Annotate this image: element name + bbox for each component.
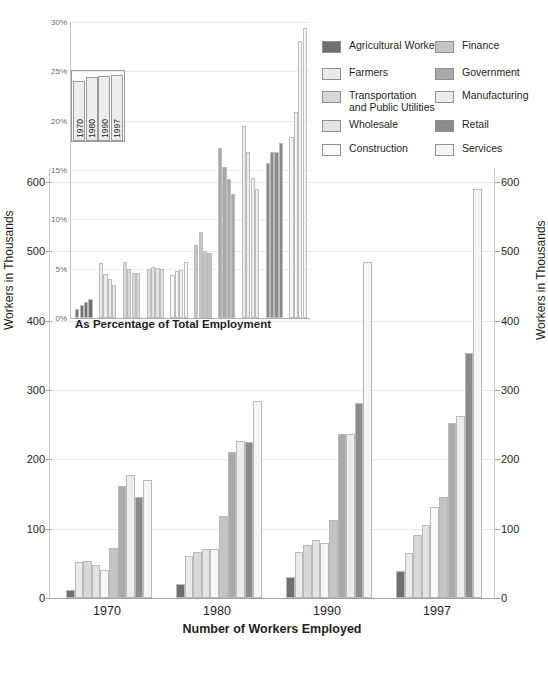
inset-bar	[255, 189, 259, 318]
legend-label: Farmers	[349, 67, 388, 79]
legend-label: Retail	[462, 119, 489, 131]
y-tick-label-left: 300	[27, 384, 45, 396]
inset-bar	[303, 28, 307, 318]
main-bar	[363, 262, 372, 598]
main-x-tick-label: 1990	[313, 604, 341, 618]
y-tick-label-right: 600	[501, 176, 519, 188]
main-bar	[253, 401, 262, 598]
legend-item[interactable]: Finance	[435, 40, 499, 53]
inset-bar	[207, 253, 211, 318]
main-right-spine	[494, 168, 495, 599]
legend-swatch	[435, 41, 454, 53]
main-bar	[193, 552, 202, 598]
legend-item[interactable]: Construction	[322, 143, 408, 156]
main-bar	[176, 584, 185, 598]
legend-label: Agricultural Workers	[349, 40, 443, 52]
main-bar	[135, 497, 144, 598]
legend-item[interactable]: Wholesale	[322, 119, 398, 132]
main-bar	[465, 353, 474, 598]
inset-year-key-label: 1980	[87, 119, 97, 138]
y-tick-label-right: 200	[501, 453, 519, 465]
legend-swatch	[322, 68, 341, 80]
main-bar	[100, 570, 109, 598]
main-bar	[236, 441, 245, 598]
inset-bar	[231, 194, 235, 318]
main-bar	[228, 452, 237, 598]
legend-label: Finance	[462, 40, 499, 52]
chart-legend: Agricultural WorkersFinanceFarmersGovern…	[322, 40, 538, 158]
legend-swatch	[322, 144, 341, 156]
main-bar	[295, 552, 304, 598]
legend-item[interactable]: Manufacturing	[435, 90, 529, 103]
main-bar	[405, 553, 414, 598]
legend-swatch	[435, 68, 454, 80]
inset-year-key: 1970198019901997	[71, 70, 125, 142]
y-tick-label-right: 100	[501, 523, 519, 535]
main-bar	[338, 434, 347, 598]
main-bar	[286, 577, 295, 598]
legend-label: Transportation and Public Utilities	[349, 90, 435, 113]
main-bar	[430, 507, 439, 598]
legend-swatch	[435, 91, 454, 103]
main-bar	[143, 480, 152, 598]
y-tick-label-left: 200	[27, 453, 45, 465]
legend-item[interactable]: Farmers	[322, 67, 388, 80]
main-bar	[355, 403, 364, 598]
inset-year-key-label: 1970	[75, 119, 85, 138]
main-bar	[219, 516, 228, 598]
main-baseline	[49, 598, 495, 599]
inset-y-tick-label: 30%	[51, 18, 67, 27]
y-tick-label-left: 400	[27, 315, 45, 327]
main-bar	[210, 549, 219, 598]
main-y-axis-label-left: Workers in Thousands	[2, 210, 16, 330]
inset-bar	[279, 143, 283, 318]
inset-bar	[184, 262, 188, 318]
main-left-spine	[49, 168, 50, 599]
legend-item[interactable]: Retail	[435, 119, 489, 132]
inset-bar	[112, 285, 116, 318]
main-bar	[66, 590, 75, 598]
inset-bar	[136, 273, 140, 318]
legend-item[interactable]: Transportation and Public Utilities	[322, 90, 435, 113]
legend-item[interactable]: Services	[435, 143, 502, 156]
main-bar	[346, 434, 355, 598]
legend-item[interactable]: Agricultural Workers	[322, 40, 443, 53]
y-tick-label-right: 0	[501, 592, 507, 604]
main-x-tick-label: 1970	[93, 604, 121, 618]
main-bar	[118, 486, 127, 598]
main-bar	[245, 442, 254, 598]
main-bar	[202, 549, 211, 598]
y-tick-label-left: 100	[27, 523, 45, 535]
main-x-tick-label: 1980	[203, 604, 231, 618]
main-bar	[439, 497, 448, 598]
inset-title: As Percentage of Total Employment	[48, 318, 298, 330]
legend-label: Services	[462, 143, 502, 155]
main-bar	[83, 561, 92, 598]
inset-y-tick-label: 5%	[55, 264, 67, 273]
inset-y-tick-label: 20%	[51, 116, 67, 125]
main-bar	[185, 556, 194, 598]
legend-label: Government	[462, 67, 520, 79]
main-bar	[303, 545, 312, 598]
y-tick-label-right: 300	[501, 384, 519, 396]
inset-y-tick-label: 10%	[51, 215, 67, 224]
main-bar	[312, 540, 321, 598]
main-x-axis-title: Number of Workers Employed	[0, 622, 544, 636]
main-bar	[75, 562, 84, 598]
legend-swatch	[435, 120, 454, 132]
main-bar	[92, 565, 101, 598]
y-tick-label-right: 400	[501, 315, 519, 327]
legend-swatch	[322, 120, 341, 132]
inset-y-tick-label: 25%	[51, 67, 67, 76]
legend-label: Manufacturing	[462, 90, 529, 102]
main-bar	[456, 416, 465, 598]
inset-year-key-label: 1990	[100, 119, 110, 138]
inset-bar	[88, 299, 92, 318]
legend-item[interactable]: Government	[435, 67, 520, 80]
inset-bar	[160, 269, 164, 318]
main-bar	[448, 423, 457, 598]
inset-year-key-label: 1997	[112, 119, 122, 138]
main-y-axis-label-right: Workers in Thousands	[534, 220, 548, 340]
inset-left-spine	[70, 22, 71, 319]
